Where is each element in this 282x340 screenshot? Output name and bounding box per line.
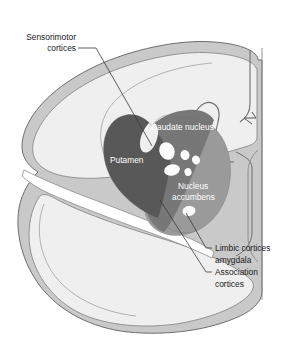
label-nucleus-accumbens-line1: Nucleus [178, 181, 208, 191]
brain-coronal-section-figure: Sensorimotor cortices Caudate nucleus Pu… [0, 0, 282, 340]
label-putamen: Putamen [110, 155, 144, 165]
label-association-cortices: Association [215, 267, 258, 277]
label-amygdala: amygdala [215, 255, 252, 265]
label-sensorimotor-cortices-line2: cortices [47, 43, 76, 53]
label-caudate-nucleus: Caudate nucleus [151, 122, 214, 132]
label-association-cortices-line2: cortices [215, 279, 244, 289]
label-nucleus-accumbens-line2: accumbens [172, 192, 215, 202]
label-sensorimotor-cortices-line1: Sensorimotor [26, 32, 76, 42]
label-limbic-cortices: Limbic cortices [215, 243, 270, 253]
